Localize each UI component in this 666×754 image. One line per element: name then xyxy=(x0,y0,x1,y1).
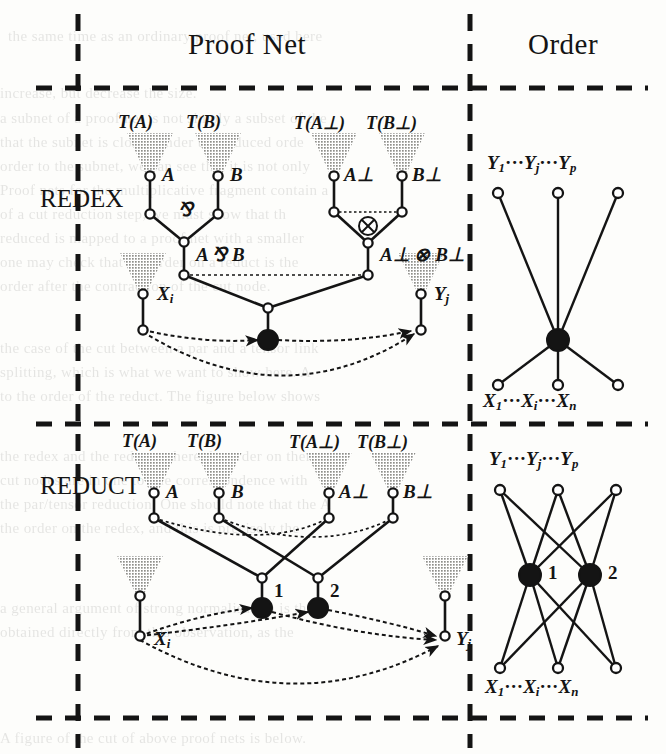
rt0: Y xyxy=(489,448,501,469)
order-node-Y1 xyxy=(495,485,505,495)
port-Yj-bot xyxy=(440,631,449,640)
order-edge-h2-Xi xyxy=(558,575,590,668)
port-Yj-top xyxy=(440,591,449,600)
order-node-Xn xyxy=(611,663,621,673)
label-reduct-Yj-sub: j xyxy=(468,636,472,651)
redex-order-graph xyxy=(493,188,623,390)
port-par xyxy=(179,237,188,246)
arrow-Xi-to-Yj xyxy=(140,640,438,684)
port-Yj-bot xyxy=(416,325,425,334)
link-par-to-cut xyxy=(184,275,268,308)
rt6: Y xyxy=(560,448,572,469)
rt7: p xyxy=(572,456,578,471)
t5: ··· xyxy=(539,152,558,173)
port-A-bot xyxy=(145,209,154,218)
b0: X xyxy=(483,390,496,411)
reduct-label-atom-A-perp: A⊥ xyxy=(339,480,369,503)
reduct-label-T-B-perp: T(B⊥) xyxy=(357,431,408,453)
t7: p xyxy=(570,160,576,175)
label-redex-Yj: Yj xyxy=(434,283,449,307)
port-Bp-top xyxy=(397,171,406,180)
label-atom-B-perp: B⊥ xyxy=(412,163,442,186)
label-redex-Xi-sub: i xyxy=(170,291,174,306)
label-T-B-perp: T(B⊥) xyxy=(366,112,417,134)
reduct-cut-label-2: 2 xyxy=(330,580,340,602)
order-node-Xn xyxy=(613,380,623,390)
port-Xi-bot xyxy=(138,325,147,334)
label-reduct-Xi: Xi xyxy=(154,628,170,652)
reduct-label-T-A: T(A) xyxy=(122,431,157,452)
link-Bp-to-cut2 xyxy=(318,518,393,578)
port-A-bot xyxy=(149,513,158,522)
order-node-X1 xyxy=(495,663,505,673)
order-node-Yj xyxy=(553,485,563,495)
link-A-to-cut1 xyxy=(154,518,262,578)
arrow-cut-to-Yj xyxy=(278,331,411,341)
order-node-Y1 xyxy=(493,188,503,198)
b6: X xyxy=(556,390,569,411)
reduct-order-hub-1 xyxy=(519,564,541,586)
port-tensor-concl xyxy=(363,270,372,279)
reduct-order-hub-label-2: 2 xyxy=(608,562,618,584)
header-proof-net: Proof Net xyxy=(188,28,306,61)
port-Bp-bot xyxy=(397,207,406,216)
reduct-order-nodes xyxy=(495,485,621,673)
reduct-label-atom-B: B xyxy=(231,481,244,503)
order-edge-h2-X1 xyxy=(500,575,590,668)
b3: X xyxy=(521,390,534,411)
redex-order-top-label: Y1···Yj···Yp xyxy=(487,152,576,176)
order-edge-h2-Y1 xyxy=(500,490,590,575)
port-Bp-bot xyxy=(388,513,397,522)
port-cut1-top xyxy=(257,573,266,582)
reduct-cut-node-2 xyxy=(308,598,328,618)
rb6: X xyxy=(558,676,571,697)
label-par-symbol: ⅋ xyxy=(178,198,193,221)
label-reduct-Yj: Yj xyxy=(456,628,471,652)
port-B-bot xyxy=(213,209,222,218)
rt5: ··· xyxy=(541,448,560,469)
port-B-top xyxy=(214,488,223,497)
order-node-Yp xyxy=(613,188,623,198)
redex-cut-node xyxy=(258,330,278,350)
reduct-cut-label-1: 1 xyxy=(274,580,284,602)
rb5: ··· xyxy=(539,676,558,697)
port-Ap-top xyxy=(329,171,338,180)
label-tensor-formula: A⊥ ⊗ B⊥ xyxy=(380,243,465,266)
port-tensor xyxy=(363,238,372,247)
b5: ··· xyxy=(537,390,556,411)
row-label-redex: REDEX xyxy=(40,185,70,212)
label-T-A: T(A) xyxy=(118,112,153,133)
row-label-redex-text: REDEX xyxy=(40,185,53,212)
order-edge-hub-Yp xyxy=(558,193,618,340)
order-node-X1 xyxy=(493,380,503,390)
label-par-formula: A ⅋ B xyxy=(196,243,245,266)
header-order: Order xyxy=(528,28,598,61)
redex-order-bottom-label: X1···Xi···Xn xyxy=(483,390,576,414)
port-B-bot xyxy=(214,513,223,522)
port-par-concl xyxy=(179,270,188,279)
port-Xi-top xyxy=(138,289,147,298)
reduct-label-T-B: T(B) xyxy=(187,431,222,452)
reduct-order-top-label: Y1···Yj···Yp xyxy=(489,448,578,472)
figure-proof-net-order: the same time as an ordinary proof net, … xyxy=(0,0,666,754)
port-Ap-bot xyxy=(329,207,338,216)
arrow-cut2-to-Yj xyxy=(328,610,436,636)
order-edge-hub-Y1 xyxy=(498,193,558,340)
order-node-Yj xyxy=(553,188,563,198)
label-reduct-Xi-base: X xyxy=(154,628,167,649)
port-A-top xyxy=(145,171,154,180)
reduct-label-T-A-perp: T(A⊥) xyxy=(289,431,340,453)
rb3: X xyxy=(523,676,536,697)
order-node-Xi xyxy=(553,663,563,673)
reduct-label-atom-A: A xyxy=(166,481,179,503)
label-atom-A: A xyxy=(162,164,175,186)
port-cut-top xyxy=(263,303,272,312)
link-Ap-to-cut1 xyxy=(262,518,329,578)
rt2: ··· xyxy=(507,448,526,469)
arrow-cut1-to-Yj xyxy=(272,612,436,640)
order-edge-h2-Yj xyxy=(558,490,590,575)
reduct-order-bottom-label: X1···Xi···Xn xyxy=(485,676,578,700)
label-T-A-perp: T(A⊥) xyxy=(294,112,345,134)
label-redex-Xi-base: X xyxy=(157,283,170,304)
reduct-order-graph xyxy=(495,485,621,673)
